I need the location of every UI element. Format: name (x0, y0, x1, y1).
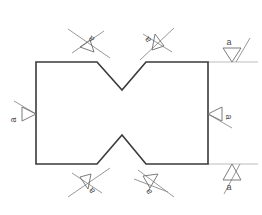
tick-line-icon (72, 173, 102, 193)
finish-label-text: a (86, 34, 96, 45)
surface-finish-triangle-icon (143, 174, 158, 188)
finish-label-text: a (142, 35, 153, 45)
annotation-bottom-right-notch-finish[interactable]: a (134, 170, 174, 197)
part-outline-group (36, 62, 208, 164)
finish-label-text: a (143, 187, 154, 197)
drawing-canvas: a a a a a a (0, 0, 262, 215)
part-outline-notched-rectangle (36, 62, 208, 164)
surface-finish-triangle-icon (223, 48, 241, 62)
leader-line-icon (236, 38, 250, 62)
annotation-top-left-notch-finish[interactable]: a (68, 29, 110, 58)
finish-label-text: a (226, 37, 231, 47)
technical-drawing-svg: a a a a a a (0, 0, 262, 215)
annotation-bottom-right-edge-finish[interactable]: a (223, 164, 241, 194)
annotation-bottom-left-notch-finish[interactable]: a (68, 168, 110, 197)
finish-label-text: a (224, 114, 234, 119)
surface-finish-triangle-icon (208, 107, 222, 121)
surface-finish-triangle-icon (22, 107, 36, 121)
annotation-right-edge-finish[interactable]: a (208, 107, 234, 128)
finish-label-text: a (8, 117, 18, 122)
annotation-top-right-edge-finish[interactable]: a (223, 37, 250, 62)
extension-lines-group (208, 62, 258, 164)
annotation-left-edge-finish[interactable]: a (8, 101, 36, 123)
finish-label-text: a (226, 182, 231, 192)
annotation-top-right-notch-finish[interactable]: a (140, 28, 174, 60)
